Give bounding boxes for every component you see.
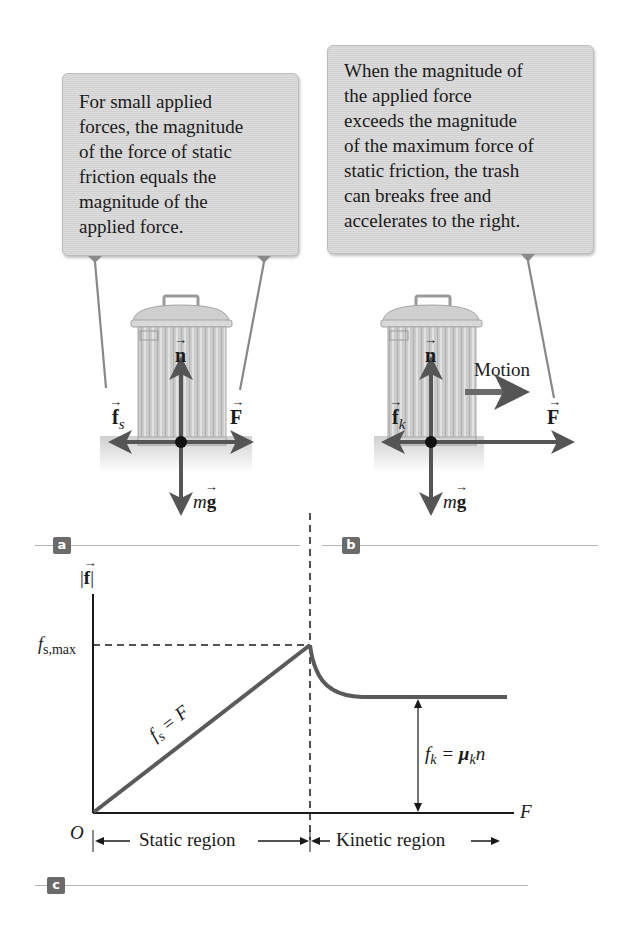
center-of-mass-b [425, 436, 437, 448]
panel-badge-b: b [342, 537, 360, 554]
kinetic-level-annotation: fk = μkn [425, 743, 485, 768]
friction-diagram [0, 0, 630, 933]
label-subscript: k [399, 416, 406, 432]
motion-label: Motion [474, 359, 530, 381]
normal-force-label-a: →n [175, 344, 186, 367]
fs-max-tick-label: fs,max [38, 634, 76, 658]
x-axis-label: F [520, 801, 532, 823]
static-friction-line [94, 645, 310, 812]
separator-b [322, 545, 598, 546]
static-friction-label: →fs [112, 406, 125, 433]
center-of-mass-a [175, 436, 187, 448]
kinetic-region-label: Kinetic region [333, 829, 448, 851]
panel-badge-c: c [47, 877, 65, 894]
y-axis-label: |→|f|f| [80, 567, 94, 589]
weight-label-a: m→g [193, 491, 216, 513]
applied-force-label-b: →F [547, 406, 559, 429]
separator-c [35, 885, 528, 886]
panel-badge-a: a [53, 537, 71, 554]
separator-a [35, 545, 300, 546]
trash-can-a [100, 296, 252, 472]
static-region-label: Static region [136, 829, 239, 851]
kinetic-friction-curve [310, 645, 507, 697]
origin-label: O [70, 822, 84, 844]
kinetic-friction-label: →fk [392, 406, 405, 433]
label-subscript: s [119, 416, 125, 432]
weight-label-b: m→g [443, 491, 466, 513]
normal-force-label-b: →n [425, 344, 436, 367]
applied-force-label-a: →F [230, 406, 242, 429]
